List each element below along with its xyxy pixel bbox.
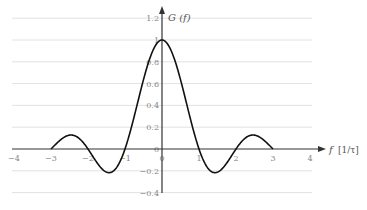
y-tick-label: 0.2 <box>146 123 159 132</box>
y-tick-label: −0.4 <box>140 189 159 198</box>
y-tick-label: −0.2 <box>140 167 159 176</box>
y-axis-arrow-icon <box>159 6 165 14</box>
x-tick-label: 3 <box>270 154 275 163</box>
sinc-chart: 1.210.80.60.40.20−0.2−0.4 −4−3−2−101234 … <box>0 0 367 210</box>
x-tick-label: 4 <box>307 154 312 163</box>
x-axis-label-var: f <box>328 144 335 155</box>
x-tick-label: −3 <box>45 154 57 163</box>
x-tick-label: −4 <box>8 154 20 163</box>
x-tick-labels: −4−3−2−101234 <box>8 154 312 163</box>
y-tick-label: 0.6 <box>146 80 159 89</box>
x-axis-arrow-icon <box>318 146 326 152</box>
y-axis-label: G (f) <box>168 12 191 23</box>
y-tick-label: 0.4 <box>146 101 159 110</box>
y-tick-label: 1.2 <box>146 14 159 23</box>
x-tick-label: 2 <box>233 154 238 163</box>
x-axis-label-unit: [1/τ] <box>338 145 359 155</box>
y-tick-labels: 1.210.80.60.40.20−0.2−0.4 <box>140 14 159 197</box>
